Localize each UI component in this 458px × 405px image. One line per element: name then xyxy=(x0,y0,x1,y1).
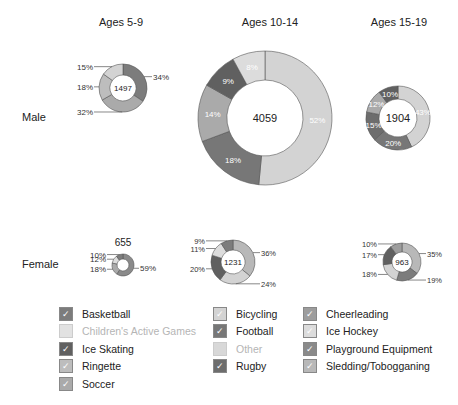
donut-total: 963 xyxy=(395,258,409,267)
segment-label: 18% xyxy=(77,83,93,92)
legend-item-ringette[interactable]: ✓ Ringette xyxy=(59,358,121,374)
segment-label: 18% xyxy=(362,270,377,279)
checkbox-icon[interactable]: ✓ xyxy=(59,377,73,391)
legend-item-sledding-tobogganing[interactable]: ✓ Sledding/Tobogganing xyxy=(303,358,430,374)
donut-total: 655 xyxy=(115,237,132,248)
segment-label: 36% xyxy=(261,249,276,258)
segment-label: 20% xyxy=(385,139,401,148)
checkbox-icon[interactable]: ✓ xyxy=(59,307,73,321)
checkbox-icon[interactable]: ✓ xyxy=(59,342,73,356)
legend-label: Soccer xyxy=(82,378,115,390)
checkbox-icon[interactable]: ✓ xyxy=(213,324,227,338)
donut-male-ages-15-19[interactable]: 43%20%15%12%10%1904 xyxy=(366,86,431,150)
legend-item-cheerleading[interactable]: ✓ Cheerleading xyxy=(303,306,388,322)
donut-total: 4059 xyxy=(253,112,277,124)
segment-label: 24% xyxy=(261,280,276,289)
checkbox-icon[interactable]: ✓ xyxy=(303,307,317,321)
legend-label: Rugby xyxy=(236,360,266,372)
donut-total: 1231 xyxy=(224,258,242,267)
legend-label: Ice Skating xyxy=(82,343,134,355)
checkbox-icon[interactable]: ✓ xyxy=(213,307,227,321)
checkbox-icon[interactable]: ✓ xyxy=(213,359,227,373)
legend-item-rugby[interactable]: ✓ Rugby xyxy=(213,358,266,374)
legend-label: Football xyxy=(236,325,273,337)
segment-label: 12% xyxy=(368,100,384,109)
segment-label: 15% xyxy=(77,63,93,72)
checkbox-icon[interactable] xyxy=(213,342,227,356)
checkbox-icon[interactable] xyxy=(59,324,73,338)
checkbox-icon[interactable]: ✓ xyxy=(303,342,317,356)
legend-label: Children's Active Games xyxy=(82,325,196,337)
legend-item-other[interactable]: Other xyxy=(213,341,262,357)
legend-label: Playground Equipment xyxy=(326,343,432,355)
segment-label: 18% xyxy=(90,265,106,274)
segment-label: 18% xyxy=(225,156,241,165)
segment-label: 20% xyxy=(190,265,205,274)
segment-label: 10% xyxy=(382,90,398,99)
legend-item-ice-skating[interactable]: ✓ Ice Skating xyxy=(59,341,134,357)
segment-label: 9% xyxy=(194,237,205,246)
donut-female-ages-10-14[interactable]: 36%24%20%11%9%1231 xyxy=(190,237,276,289)
checkbox-icon[interactable]: ✓ xyxy=(303,359,317,373)
segment-label: 59% xyxy=(140,264,156,273)
segment-label: 52% xyxy=(309,116,325,125)
legend-label: Basketball xyxy=(82,308,130,320)
segment-label: 17% xyxy=(362,251,377,260)
legend-label: Cheerleading xyxy=(326,308,388,320)
segment-label: 10% xyxy=(90,251,106,260)
donut-total: 1904 xyxy=(386,112,410,124)
donut-chart-grid: 34%32%18%15%149752%18%14%9%8%405943%20%1… xyxy=(0,0,458,300)
checkbox-icon[interactable]: ✓ xyxy=(303,324,317,338)
segment-label: 19% xyxy=(427,276,442,285)
legend-label: Bicycling xyxy=(236,308,277,320)
legend-item-childrens-active-games[interactable]: Children's Active Games xyxy=(59,323,196,339)
segment-label: 15% xyxy=(366,121,382,130)
segment-label: 34% xyxy=(153,73,169,82)
donut-total: 1497 xyxy=(114,84,132,93)
donut-female-ages-15-19[interactable]: 35%19%18%17%10%963 xyxy=(362,240,442,285)
segment-label: 32% xyxy=(77,108,93,117)
segment-label: 8% xyxy=(246,63,258,72)
donut-male-ages-5-9[interactable]: 34%32%18%15%1497 xyxy=(77,63,169,117)
legend-label: Sledding/Tobogganing xyxy=(326,360,430,372)
legend-label: Ringette xyxy=(82,360,121,372)
legend-item-playground-equipment[interactable]: ✓ Playground Equipment xyxy=(303,341,432,357)
donut-female-ages-5-9[interactable]: 59%18%12%10%655 xyxy=(90,237,156,276)
legend-label: Ice Hockey xyxy=(326,325,378,337)
legend-item-basketball[interactable]: ✓ Basketball xyxy=(59,306,130,322)
donut-segment[interactable] xyxy=(102,95,143,113)
legend-label: Other xyxy=(236,343,262,355)
legend-item-football[interactable]: ✓ Football xyxy=(213,323,273,339)
segment-label: 35% xyxy=(427,250,442,259)
segment-label: 9% xyxy=(222,77,234,86)
checkbox-icon[interactable]: ✓ xyxy=(59,359,73,373)
legend-item-bicycling[interactable]: ✓ Bicycling xyxy=(213,306,277,322)
segment-label: 10% xyxy=(362,240,377,249)
donut-male-ages-10-14[interactable]: 52%18%14%9%8%4059 xyxy=(198,51,332,185)
legend-item-ice-hockey[interactable]: ✓ Ice Hockey xyxy=(303,323,378,339)
segment-label: 14% xyxy=(205,110,221,119)
segment-label: 43% xyxy=(415,108,431,117)
legend-item-soccer[interactable]: ✓ Soccer xyxy=(59,376,115,392)
